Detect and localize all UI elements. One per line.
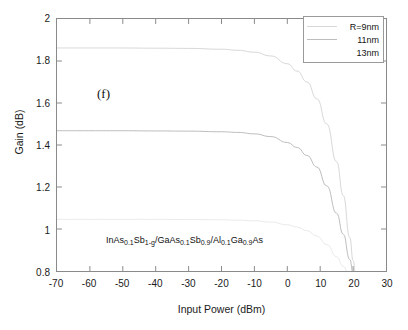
material-sub-2: 1-g <box>145 239 155 246</box>
x-tick-label: 0 <box>285 278 291 289</box>
chart-figure: Gain (dB) 0.811.21.41.61.82 -70-60-50-40… <box>0 0 408 330</box>
material-sub-3: 0.1 <box>180 239 190 246</box>
material-sub-4: 0.9 <box>201 239 211 246</box>
y-tick-label: 1.8 <box>0 55 50 66</box>
y-tick-label: 1 <box>0 224 50 235</box>
x-tick-label: -10 <box>247 278 261 289</box>
material-part-1: InAs <box>106 235 124 245</box>
legend-entry-1: 11nm <box>304 33 383 46</box>
material-sub-1: 0.1 <box>124 239 134 246</box>
x-tick-label: -50 <box>115 278 129 289</box>
material-part-2: Sb <box>134 235 145 245</box>
x-axis-label: Input Power (dBm) <box>56 303 387 315</box>
chart-legend: R=9nm 11nm 13nm <box>303 16 384 63</box>
y-tick-label: 1.2 <box>0 182 50 193</box>
legend-entry-2: 13nm <box>304 46 383 59</box>
x-tick-label: -40 <box>148 278 162 289</box>
y-tick-label: 1.4 <box>0 140 50 151</box>
x-tick-label: 20 <box>348 278 359 289</box>
legend-entry-0: R=9nm <box>304 20 383 33</box>
x-tick-label: -60 <box>82 278 96 289</box>
x-tick-label: -30 <box>181 278 195 289</box>
material-sub-6: 0.9 <box>243 239 253 246</box>
y-tick-label: 1.6 <box>0 97 50 108</box>
legend-line-icon <box>307 26 337 27</box>
material-part-7: As <box>252 235 263 245</box>
y-tick-label: 2 <box>0 13 50 24</box>
legend-label: 11nm <box>341 35 379 45</box>
legend-line-icon <box>307 52 337 53</box>
y-tick-label: 0.8 <box>0 267 50 278</box>
legend-line-icon <box>307 39 337 40</box>
material-part-5: /Al <box>210 235 221 245</box>
x-tick-label: 10 <box>315 278 326 289</box>
x-tick-label: -20 <box>214 278 228 289</box>
x-tick-label: -70 <box>49 278 63 289</box>
legend-label: R=9nm <box>341 22 379 32</box>
material-part-4: Sb <box>190 235 201 245</box>
x-tick-label: 30 <box>381 278 392 289</box>
panel-tag: (f) <box>97 86 110 102</box>
material-part-3: /GaAs <box>155 235 180 245</box>
series-line-1 <box>57 131 356 271</box>
material-annotation: InAs0.1Sb1-g/GaAs0.1Sb0.9/Al0.1Ga0.9As <box>106 235 263 245</box>
material-sub-5: 0.1 <box>221 239 231 246</box>
material-part-6: Ga <box>231 235 243 245</box>
legend-label: 13nm <box>341 48 379 58</box>
